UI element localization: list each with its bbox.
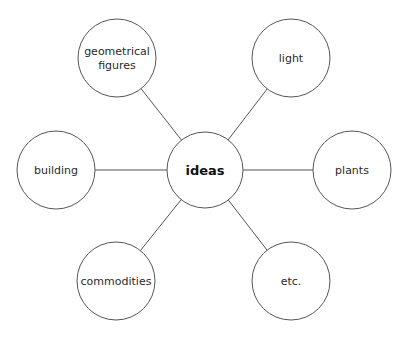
node-label: figures <box>98 59 136 72</box>
node-commodities: commodities <box>77 242 155 320</box>
node-label: etc. <box>281 275 302 288</box>
mind-map-diagram: geometricalfigureslightbuildingplantscom… <box>0 0 406 337</box>
center-node: ideas <box>167 132 243 208</box>
edge-commodities <box>140 200 181 251</box>
center-node-label: ideas <box>185 163 224 178</box>
node-label: building <box>34 164 78 177</box>
node-building: building <box>17 131 95 209</box>
node-geometrical-figures: geometricalfigures <box>78 19 156 97</box>
node-label: light <box>279 52 304 65</box>
edge-geometrical-figures <box>141 89 181 140</box>
node-label: geometrical <box>84 45 150 58</box>
node-label: plants <box>335 164 369 177</box>
node-label: commodities <box>81 275 152 288</box>
edge-light <box>228 89 267 140</box>
node-plants: plants <box>313 131 391 209</box>
node-etc: etc. <box>252 242 330 320</box>
node-light: light <box>252 19 330 97</box>
edge-etc <box>228 200 267 250</box>
